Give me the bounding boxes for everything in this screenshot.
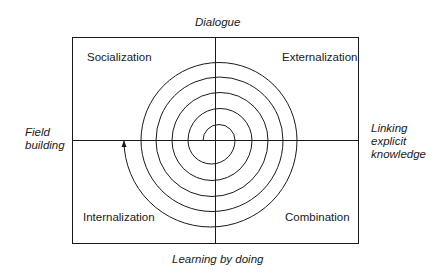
axis-label-right-line-1: Linking xyxy=(371,122,426,135)
knowledge-spiral xyxy=(124,63,297,228)
axis-label-right-line-3: knowledge xyxy=(371,148,426,161)
axis-label-left-line-2: building xyxy=(25,139,65,152)
quadrant-label-externalization: Externalization xyxy=(282,51,357,64)
quadrant-label-internalization: Internalization xyxy=(83,211,155,224)
axis-label-top: Dialogue xyxy=(195,16,240,29)
axis-label-bottom: Learning by doing xyxy=(172,253,263,266)
quadrant-label-combination: Combination xyxy=(285,211,350,224)
axis-label-left-line-1: Field xyxy=(25,126,65,139)
quadrant-label-socialization: Socialization xyxy=(87,51,152,64)
axis-label-right: Linking explicit knowledge xyxy=(371,122,426,161)
arrow-up-icon xyxy=(122,141,127,148)
axis-label-left: Field building xyxy=(25,126,65,152)
axis-label-right-line-2: explicit xyxy=(371,135,426,148)
